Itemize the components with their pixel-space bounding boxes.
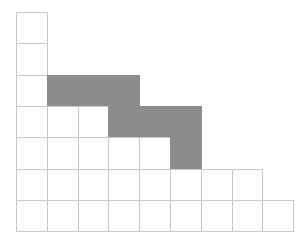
shaded-grid-cell (108, 106, 140, 138)
grid-cell (47, 137, 79, 170)
grid-cell (47, 169, 79, 201)
grid-cell (139, 137, 171, 170)
grid-cell (16, 169, 48, 201)
grid-cell (16, 137, 48, 170)
grid-cell (139, 200, 171, 232)
shaded-grid-cell (78, 75, 109, 107)
grid-cell (78, 106, 109, 138)
grid-cell (16, 200, 48, 232)
grid-cell (16, 43, 48, 76)
grid-cell (78, 200, 109, 232)
grid-cell (139, 169, 171, 201)
grid-cell (201, 200, 233, 232)
grid-cell (108, 200, 140, 232)
shaded-grid-cell (47, 75, 79, 107)
grid-cell (16, 75, 48, 107)
grid-cell (16, 106, 48, 138)
grid-cell (16, 12, 48, 44)
grid-cell (201, 169, 233, 201)
shaded-grid-cell (170, 106, 202, 138)
grid-cell (170, 169, 202, 201)
grid-cell (232, 200, 263, 232)
grid-cell (108, 169, 140, 201)
shaded-grid-cell (139, 106, 171, 138)
grid-cell (47, 106, 79, 138)
shaded-grid-cell (108, 75, 140, 107)
grid-cell (47, 200, 79, 232)
grid-cell (78, 137, 109, 170)
grid-cell (78, 169, 109, 201)
grid-cell (170, 200, 202, 232)
grid-cell (232, 169, 263, 201)
shaded-grid-cell (170, 137, 202, 170)
grid-cell (108, 137, 140, 170)
grid-cell (262, 200, 294, 232)
